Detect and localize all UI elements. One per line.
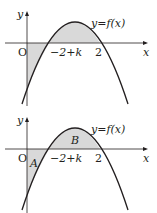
curve-label: y=f(x) — [90, 17, 125, 30]
region-b-label: B — [70, 134, 79, 147]
origin-label: O — [18, 46, 27, 59]
graph-panel-top: y x O −2+k 2 y=f(x) — [0, 0, 157, 106]
origin-label: O — [18, 152, 27, 165]
y-axis-arrow-icon — [25, 11, 29, 16]
curve-label: y=f(x) — [90, 123, 125, 136]
left-root-label: −2+k — [50, 152, 82, 165]
graph-panel-bottom: y x O −2+k 2 y=f(x) A B — [0, 106, 157, 212]
right-root-label: 2 — [95, 46, 102, 59]
x-axis-arrow-icon — [143, 41, 148, 45]
y-axis-label: y — [16, 8, 24, 21]
parabola-graph-bottom: y x O −2+k 2 y=f(x) A B — [0, 106, 157, 213]
x-axis-arrow-icon — [143, 147, 148, 151]
x-axis-label: x — [143, 46, 150, 59]
y-axis-arrow-icon — [25, 117, 29, 122]
right-root-label: 2 — [95, 152, 102, 165]
y-axis-label: y — [16, 114, 24, 127]
x-axis-label: x — [143, 152, 150, 165]
region-a-label: A — [29, 157, 38, 170]
left-root-label: −2+k — [50, 46, 82, 59]
parabola-graph-top: y x O −2+k 2 y=f(x) — [0, 0, 157, 106]
